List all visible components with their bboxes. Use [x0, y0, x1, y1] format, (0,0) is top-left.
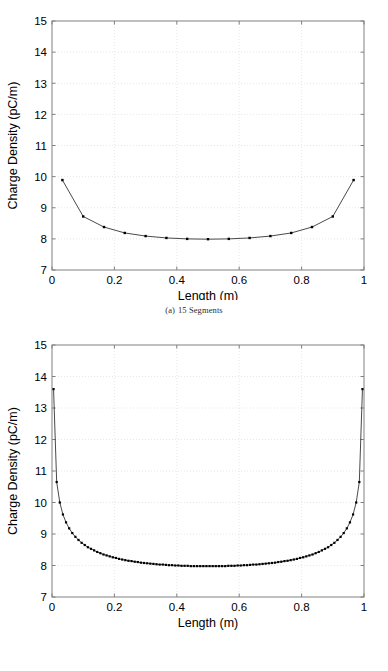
data-marker — [274, 562, 276, 564]
data-marker — [112, 556, 114, 558]
data-marker — [346, 527, 348, 529]
data-marker — [277, 561, 279, 563]
y-tick-label: 10 — [34, 497, 47, 509]
data-marker — [127, 560, 129, 562]
data-marker — [246, 564, 248, 566]
chart-a-plot-area: 78910111213141500.20.40.60.81Length (m)C… — [0, 0, 388, 330]
data-marker — [177, 564, 179, 566]
y-tick-label: 15 — [34, 339, 47, 351]
data-marker — [99, 552, 101, 554]
x-axis-label: Length (m) — [178, 616, 238, 630]
data-marker — [96, 551, 98, 553]
data-marker — [109, 555, 111, 557]
x-tick-label: 1 — [361, 601, 367, 613]
data-marker — [321, 549, 323, 551]
data-marker — [249, 564, 251, 566]
data-marker — [61, 179, 63, 181]
data-marker — [143, 562, 145, 564]
data-marker — [311, 226, 313, 228]
data-marker — [159, 563, 161, 565]
data-marker — [248, 237, 250, 239]
data-marker — [336, 539, 338, 541]
data-marker — [262, 563, 264, 565]
data-marker — [299, 557, 301, 559]
y-tick-label: 11 — [35, 140, 47, 152]
data-marker — [118, 558, 120, 560]
data-marker — [228, 238, 230, 240]
data-marker — [87, 546, 89, 548]
data-marker — [243, 564, 245, 566]
data-marker — [121, 558, 123, 560]
data-marker — [333, 542, 335, 544]
data-marker — [215, 565, 217, 567]
data-marker — [318, 551, 320, 553]
x-tick-label: 0.6 — [231, 274, 247, 286]
data-marker — [280, 561, 282, 563]
data-marker — [207, 238, 209, 240]
y-axis-label: Charge Density (pC/m) — [6, 407, 20, 535]
y-tick-label: 9 — [41, 202, 47, 214]
y-tick-label: 8 — [41, 560, 47, 572]
chart-a-svg: 78910111213141500.20.40.60.81Length (m)C… — [0, 0, 388, 300]
data-marker — [130, 560, 132, 562]
data-marker — [252, 563, 254, 565]
data-markers — [52, 388, 363, 567]
data-marker — [186, 238, 188, 240]
data-marker — [180, 565, 182, 567]
y-axis-label: Charge Density (pC/m) — [6, 82, 20, 210]
data-marker — [352, 513, 354, 515]
data-marker — [165, 237, 167, 239]
y-tick-label: 12 — [34, 434, 47, 446]
data-marker — [190, 565, 192, 567]
data-marker — [137, 561, 139, 563]
data-marker — [115, 557, 117, 559]
data-marker — [71, 532, 73, 534]
y-tick-label: 13 — [34, 78, 47, 90]
data-marker — [355, 501, 357, 503]
data-marker — [237, 564, 239, 566]
data-marker — [90, 548, 92, 550]
y-tick-label: 8 — [41, 233, 47, 245]
data-marker — [56, 481, 58, 483]
y-tick-label: 15 — [34, 15, 47, 27]
data-marker — [311, 553, 313, 555]
data-marker — [59, 501, 61, 503]
data-marker — [152, 563, 154, 565]
data-marker — [271, 562, 273, 564]
data-line — [62, 180, 353, 239]
data-marker — [221, 565, 223, 567]
data-marker — [208, 565, 210, 567]
data-marker — [171, 564, 173, 566]
gridlines — [52, 345, 364, 597]
data-marker — [227, 565, 229, 567]
gridlines — [52, 21, 364, 270]
x-tick-label: 0.8 — [294, 274, 310, 286]
data-marker — [124, 559, 126, 561]
caption-a-text: 15 Segments — [178, 305, 223, 315]
data-marker — [184, 565, 186, 567]
data-markers — [61, 179, 355, 241]
data-marker — [340, 536, 342, 538]
subfigure-a: 78910111213141500.20.40.60.81Length (m)C… — [0, 0, 388, 330]
data-marker — [290, 559, 292, 561]
data-marker — [268, 562, 270, 564]
data-marker — [255, 563, 257, 565]
data-marker — [199, 565, 201, 567]
data-marker — [82, 215, 84, 217]
data-marker — [65, 521, 67, 523]
data-marker — [327, 546, 329, 548]
data-marker — [205, 565, 207, 567]
data-marker — [62, 513, 64, 515]
data-marker — [146, 562, 148, 564]
caption-a: (a)15 Segments — [0, 305, 388, 315]
x-tick-label: 0.2 — [106, 274, 122, 286]
data-marker — [168, 564, 170, 566]
data-marker — [324, 548, 326, 550]
data-marker — [343, 532, 345, 534]
data-marker — [286, 560, 288, 562]
data-marker — [84, 544, 86, 546]
data-marker — [68, 527, 70, 529]
data-marker — [349, 521, 351, 523]
data-marker — [352, 179, 354, 181]
y-tick-label: 11 — [35, 465, 47, 477]
